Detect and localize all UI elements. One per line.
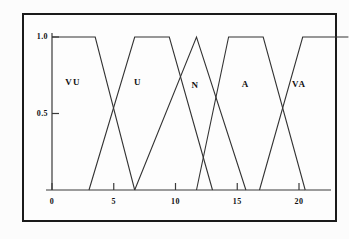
set-label-a: A bbox=[242, 79, 250, 89]
set-label-n: N bbox=[191, 80, 199, 90]
figure-canvas: 0.51.0 05101520 VUUNAVA bbox=[0, 0, 349, 239]
membership-curve-n bbox=[135, 37, 246, 190]
membership-curve-vu bbox=[52, 37, 135, 190]
set-label-u: U bbox=[134, 77, 142, 87]
set-label-va: VA bbox=[292, 79, 306, 89]
membership-curve-va bbox=[260, 37, 349, 190]
x-tick-label: 15 bbox=[222, 197, 252, 206]
membership-curves bbox=[52, 37, 348, 190]
x-tick-label: 20 bbox=[284, 197, 314, 206]
membership-curve-u bbox=[89, 37, 213, 190]
y-tick-label: 1.0 bbox=[18, 32, 48, 41]
membership-curve-a bbox=[197, 37, 306, 190]
set-label-vu: VU bbox=[65, 77, 80, 87]
y-axis-ticks bbox=[52, 37, 59, 114]
x-tick-label: 10 bbox=[161, 197, 191, 206]
x-tick-label: 5 bbox=[99, 197, 129, 206]
x-tick-label: 0 bbox=[37, 197, 67, 206]
y-tick-label: 0.5 bbox=[18, 109, 48, 118]
